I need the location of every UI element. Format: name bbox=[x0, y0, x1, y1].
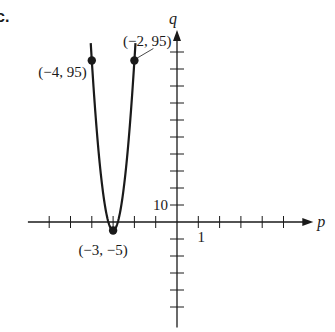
parabola-curve bbox=[91, 43, 136, 230]
point-label: (−4, 95) bbox=[38, 64, 86, 81]
ticks bbox=[49, 52, 283, 307]
part-label: c. bbox=[0, 8, 9, 25]
labels-layer: pq110(−4, 95)(−2, 95)(−3, −5) bbox=[38, 10, 325, 259]
x-axis-arrow bbox=[302, 218, 313, 226]
data-point bbox=[88, 56, 96, 64]
point-leader-line bbox=[136, 49, 153, 59]
point-label: (−3, −5) bbox=[78, 242, 127, 259]
y-axis-label: q bbox=[169, 10, 177, 28]
point-label: (−2, 95) bbox=[123, 33, 171, 50]
data-point bbox=[109, 226, 117, 234]
y-tick-label: 10 bbox=[153, 197, 168, 213]
y-axis-arrow bbox=[173, 30, 181, 41]
points-layer bbox=[88, 56, 139, 234]
parabola-chart: c. pq110(−4, 95)(−2, 95)(−3, −5) bbox=[0, 0, 335, 332]
curve-layer bbox=[91, 43, 136, 230]
x-tick-label: 1 bbox=[198, 229, 206, 245]
x-axis-label: p bbox=[316, 213, 325, 231]
